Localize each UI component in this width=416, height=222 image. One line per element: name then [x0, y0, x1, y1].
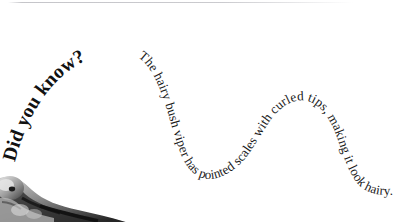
fact-body-textpath: The hairy bush viper has pointed scales …: [136, 48, 393, 198]
wave-text-graphic: Did you know? The hairy bush viper has p…: [0, 0, 416, 222]
fact-card: Did you know? The hairy bush viper has p…: [0, 0, 416, 222]
fact-lead-label: Did you know?: [0, 45, 88, 163]
fact-lead-textpath: Did you know?: [0, 45, 88, 163]
fact-body-text: The hairy bush viper has pointed scales …: [136, 48, 393, 198]
